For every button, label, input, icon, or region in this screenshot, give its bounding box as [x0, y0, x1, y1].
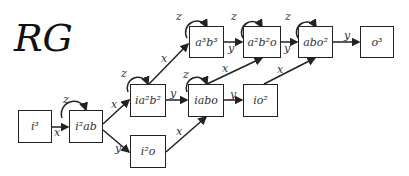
edge-io2-abo2	[264, 58, 315, 84]
node-a3b3: a³b³	[189, 26, 224, 58]
edge-label-x: x	[111, 98, 117, 111]
node-label: a³b³	[195, 36, 217, 49]
edge-label-z: z	[231, 10, 237, 23]
node-i2o: i²o	[130, 135, 166, 168]
edge-label-y: y	[115, 142, 121, 155]
node-i2ab: i²ab	[69, 110, 103, 143]
node-label: i²o	[141, 145, 156, 158]
node-label: i²ab	[75, 120, 97, 133]
edge-label-z: z	[63, 93, 69, 106]
node-i3: i³	[18, 110, 52, 143]
node-io2: io²	[243, 84, 278, 117]
edge-label-z: z	[121, 67, 127, 80]
edge-i2o-iabo	[166, 117, 206, 152]
edge-iabo-a2b2o	[207, 58, 262, 84]
node-label: io²	[253, 94, 268, 107]
node-label: iabo	[194, 94, 218, 107]
edge-label-y: y	[170, 87, 176, 100]
node-iabo: iabo	[188, 84, 224, 117]
edge-label-z: z	[285, 10, 291, 23]
edge-label-x: x	[176, 125, 182, 138]
node-label: abo²	[303, 36, 328, 49]
edge-label-y: y	[284, 42, 290, 55]
node-ia2b2: ia²b²	[130, 84, 166, 117]
edge-label-x: x	[222, 62, 228, 75]
edge-label-y: y	[228, 42, 234, 55]
node-a2b2o: a²b²o	[243, 26, 281, 58]
edge-label-x: x	[161, 52, 167, 65]
node-label: a²b²o	[247, 36, 276, 49]
edge-label-z: z	[176, 10, 182, 23]
node-label: i³	[31, 120, 39, 133]
node-label: o³	[371, 36, 382, 49]
edge-label-x: x	[277, 63, 283, 76]
edge-label-y: y	[344, 29, 350, 42]
edge-label-z: z	[183, 68, 189, 81]
edge-label-x: x	[54, 126, 60, 139]
node-label: ia²b²	[135, 94, 161, 107]
node-abo2: abo²	[298, 26, 333, 58]
node-o3: o³	[360, 26, 394, 58]
edge-label-y: y	[230, 88, 236, 101]
